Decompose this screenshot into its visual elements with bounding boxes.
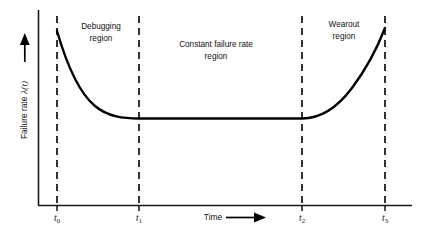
tick-label-t0: t0 [54,213,61,224]
right-arrow-icon [226,213,266,223]
region-debugging-line2: region [90,34,113,43]
tick-label-t2: t2 [299,213,305,224]
region-label-constant: Constant failure rate region [179,40,253,61]
y-axis-label-group: Failure rateλ(t) [19,33,30,139]
bathtub-curve-figure: Debugging region Constant failure rate r… [0,0,425,235]
region-wearout-line1: Wearout [329,20,361,29]
region-label-wearout: Wearout region [329,20,361,41]
up-arrow-icon [20,33,30,62]
tick-label-t0-sub: 0 [57,217,61,224]
region-label-debugging: Debugging region [81,22,121,43]
y-axis-label: Failure rateλ(t) [19,81,29,139]
x-axis-label: Time [204,212,223,222]
region-constant-line1: Constant failure rate [179,40,253,49]
y-axis-symbol: λ(t) [19,81,29,95]
region-debugging-line1: Debugging [81,22,121,31]
chart-svg: Debugging region Constant failure rate r… [0,0,425,235]
y-axis-label-text: Failure rate [19,96,29,139]
tick-label-t3: t3 [382,213,389,224]
tick-label-t1-sub: 1 [139,217,142,224]
tick-label-t1: t1 [136,213,142,224]
tick-label-t3-sub: 3 [385,217,389,224]
region-constant-line2: region [205,52,228,61]
tick-label-t2-sub: 2 [302,217,305,224]
region-wearout-line2: region [333,32,356,41]
